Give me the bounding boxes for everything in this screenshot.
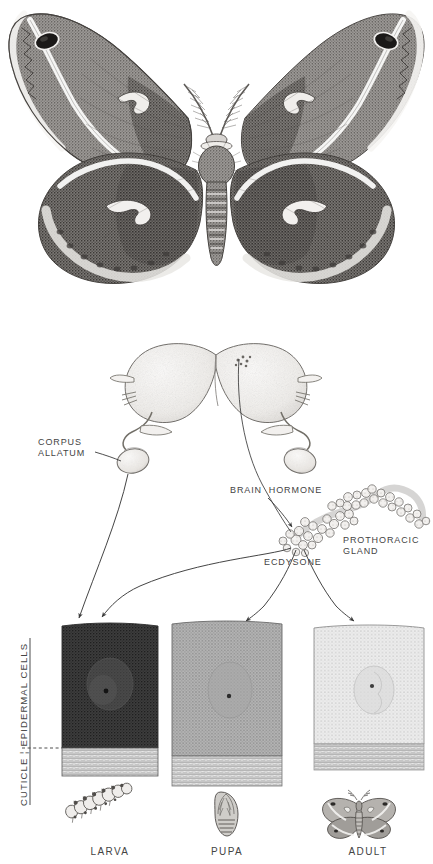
corpus-allatum-label-line1: CORPUS: [38, 437, 82, 448]
axis-label: CUTICLE ¦ EPIDERMAL CELLS: [18, 643, 29, 806]
stage-label-larva: LARVA: [60, 846, 160, 857]
prothoracic-gland-label-line2: GLAND: [343, 546, 379, 557]
adult-nucleus: [354, 666, 394, 714]
larva-panel: [62, 623, 158, 776]
adult-nucleolus: [370, 684, 374, 688]
brain-hormone-label: BRAIN HORMONE: [230, 485, 322, 496]
pupa-cuticle: [172, 756, 282, 786]
larva-cuticle: [62, 748, 158, 776]
stage-label-adult: ADULT: [318, 846, 418, 857]
pupa-nucleus: [208, 662, 252, 718]
stage-label-pupa: PUPA: [177, 846, 277, 857]
adult-panel: [314, 625, 424, 770]
figure-root: [0, 0, 433, 864]
prothoracic-gland-label-line1: PROTHORACIC: [343, 535, 419, 546]
ecdysone-label: ECDYSONE: [264, 557, 322, 568]
corpus-allatum-label-line2: ALLATUM: [38, 448, 85, 459]
thorax: [199, 146, 235, 186]
larva-nucleolus: [104, 689, 109, 694]
pupa-nucleolus: [227, 694, 231, 698]
adult-cuticle: [314, 744, 424, 770]
pupa-panel: [172, 621, 282, 786]
